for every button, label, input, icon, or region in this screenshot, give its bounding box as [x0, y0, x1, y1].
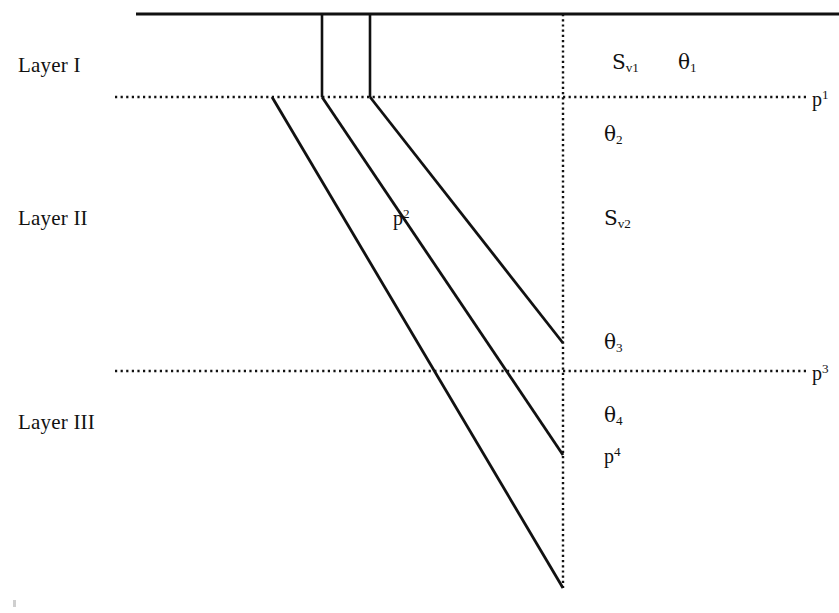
diagram-canvas: Layer I Layer II Layer III p1 p3 Sv1 θ1 … — [0, 0, 839, 613]
annotation-sv1-base: S — [612, 50, 626, 74]
annotation-p4-sup: 4 — [614, 444, 621, 459]
annotation-p2: p2 — [393, 207, 410, 228]
annotation-p4: p4 — [604, 445, 621, 466]
annotation-theta3-sub: 3 — [616, 340, 623, 355]
annotation-theta2-sub: 2 — [616, 132, 623, 147]
interface-label-p1-sup: 1 — [822, 87, 829, 102]
interface-label-p3: p3 — [812, 362, 829, 383]
ray-path-svg — [0, 0, 839, 613]
interface-label-p1: p1 — [812, 88, 829, 109]
annotation-theta1-sub: 1 — [690, 60, 697, 75]
annotation-theta1-base: θ — [678, 50, 690, 74]
annotation-theta1: θ1 — [678, 52, 697, 74]
diagram-background — [0, 0, 839, 613]
layer-label-ii: Layer II — [18, 208, 88, 229]
layer-label-i: Layer I — [18, 55, 81, 76]
annotation-p2-base: p — [393, 207, 403, 229]
annotation-theta4-base: θ — [604, 403, 616, 427]
annotation-theta4: θ4 — [604, 405, 623, 427]
annotation-sv2: Sv2 — [604, 208, 631, 230]
annotation-p2-sup: 2 — [403, 206, 410, 221]
annotation-p4-base: p — [604, 445, 614, 467]
annotation-theta2: θ2 — [604, 124, 623, 146]
annotation-sv2-base: S — [604, 206, 618, 230]
scan-artifact-speck — [13, 600, 16, 607]
annotation-sv2-sub: v2 — [618, 216, 631, 231]
annotation-theta3-base: θ — [604, 330, 616, 354]
annotation-sv1-sub: v1 — [626, 60, 639, 75]
interface-label-p3-sup: 3 — [822, 361, 829, 376]
annotation-sv1: Sv1 — [612, 52, 639, 74]
annotation-theta4-sub: 4 — [616, 413, 623, 428]
annotation-theta3: θ3 — [604, 332, 623, 354]
interface-label-p1-base: p — [812, 88, 822, 110]
interface-label-p3-base: p — [812, 362, 822, 384]
layer-label-iii: Layer III — [18, 412, 95, 433]
annotation-theta2-base: θ — [604, 122, 616, 146]
